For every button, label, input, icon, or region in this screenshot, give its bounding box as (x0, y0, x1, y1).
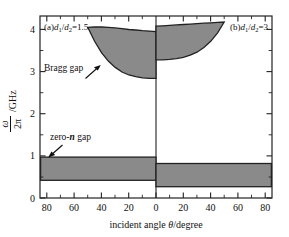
x-axis-title: incident angle θ/degree (109, 219, 203, 230)
zero-n-gap-suffix: gap (75, 132, 91, 142)
y-tick-label-4: 4 (30, 24, 35, 35)
y-axis-numerator: ω (0, 120, 10, 127)
y-tick-label-2: 2 (30, 108, 35, 119)
zero-n-gap-region-panel-b (156, 164, 271, 187)
figure-container: 0 1 2 3 4 80 60 40 20 0 20 40 60 80 (a)d… (0, 0, 289, 237)
panel-a-label: (a)d1/d2=1.5 (44, 22, 89, 33)
x-tick-label-left-40: 40 (96, 202, 106, 213)
y-tick-label-1: 1 (30, 150, 35, 161)
x-axis-title-unit: /degree (173, 219, 203, 230)
x-tick-label-right-40: 40 (206, 202, 216, 213)
x-tick-label-left-60: 60 (69, 202, 79, 213)
x-tick-label-right-60: 60 (233, 202, 243, 213)
y-axis-denominator: 2π (12, 119, 23, 129)
panel-a-value: 1.5 (77, 22, 89, 32)
x-tick-label-left-20: 20 (124, 202, 134, 213)
panel-b-label: (b)d1/d2=3 (230, 22, 269, 33)
x-tick-label-center-0: 0 (154, 202, 159, 213)
panel-b-tag: (b) (230, 22, 241, 32)
y-axis-title: ω 2π /GHz (0, 90, 23, 132)
zero-n-gap-prefix: zero- (50, 132, 70, 142)
bragg-gap-annotation-label: Bragg gap (44, 63, 84, 73)
x-tick-label-right-20: 20 (178, 202, 188, 213)
y-tick-label-3: 3 (30, 66, 35, 77)
x-tick-label-left-80: 80 (42, 202, 52, 213)
zero-n-gap-annotation-label: zero-n gap (50, 132, 91, 142)
panel-a-tag: (a) (44, 22, 54, 32)
zero-n-gap-region-panel-a (41, 157, 156, 180)
physics-plot-svg: 0 1 2 3 4 80 60 40 20 0 20 40 60 80 (a)d… (0, 0, 289, 237)
y-tick-label-0: 0 (30, 193, 35, 204)
y-axis-unit: /GHz (7, 90, 18, 112)
panel-b-value: 3 (264, 22, 269, 32)
x-tick-label-right-80: 80 (260, 202, 270, 213)
x-axis-title-prefix: incident angle (109, 219, 166, 230)
